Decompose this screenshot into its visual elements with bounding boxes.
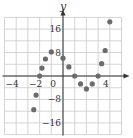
- data-point: [66, 64, 71, 69]
- data-point: [49, 49, 54, 54]
- data-point: [72, 73, 77, 78]
- y-axis-label: y: [59, 0, 67, 13]
- data-point: [78, 81, 83, 86]
- data-point: [60, 56, 65, 61]
- plot-area: xy −4−204168−8−16: [0, 0, 132, 138]
- data-point: [37, 73, 42, 78]
- y-tick-label: 8: [55, 48, 61, 58]
- data-point: [43, 56, 48, 61]
- data-points: [31, 19, 112, 112]
- data-point: [90, 81, 95, 86]
- data-point: [31, 107, 36, 112]
- x-tick-label: −4: [6, 79, 20, 89]
- x-axis-arrow-icon: [124, 74, 130, 79]
- x-tick-label: −2: [29, 79, 42, 89]
- y-tick-label: −16: [42, 118, 61, 128]
- x-axis-label: x: [132, 69, 133, 82]
- y-tick-label: 16: [50, 24, 62, 34]
- y-tick-label: −8: [48, 94, 62, 104]
- data-point: [96, 73, 101, 78]
- x-tick-label: 0: [50, 79, 56, 89]
- data-point: [107, 19, 112, 24]
- data-point: [84, 86, 89, 91]
- data-point: [103, 48, 108, 53]
- scatter-chart: xy −4−204168−8−16: [0, 0, 132, 138]
- data-point: [33, 92, 38, 97]
- x-tick-label: 4: [103, 79, 109, 89]
- data-point: [99, 61, 104, 66]
- data-point: [39, 65, 44, 70]
